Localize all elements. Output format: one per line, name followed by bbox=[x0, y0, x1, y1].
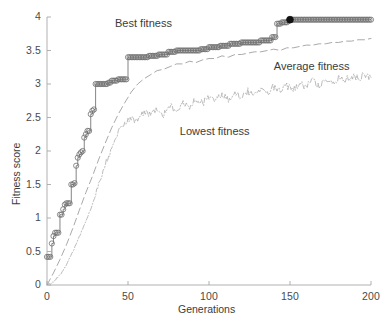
highlight-point bbox=[287, 16, 294, 23]
figure-canvas: 0 0.5 1 1.5 2 2.5 3 3.5 4 0 50 100 150 2… bbox=[0, 0, 390, 321]
y-tick-label-1: 1 bbox=[8, 211, 41, 223]
marker-group bbox=[44, 17, 373, 259]
y-tick-label-3: 3 bbox=[8, 77, 41, 89]
x-tick-label-100: 100 bbox=[189, 290, 229, 302]
annotation-average-fitness: Average fitness bbox=[274, 60, 350, 72]
x-tick-label-50: 50 bbox=[108, 290, 148, 302]
y-axis-label: Fitness score bbox=[10, 143, 22, 205]
y-tick-label-3_5: 3.5 bbox=[8, 44, 41, 56]
annotation-best-fitness: Best fitness bbox=[115, 17, 172, 29]
annotation-lowest-fitness: Lowest fitness bbox=[180, 125, 250, 137]
x-tick-label-200: 200 bbox=[351, 290, 390, 302]
x-axis-label: Generations bbox=[178, 303, 235, 315]
x-tick-label-0: 0 bbox=[27, 290, 67, 302]
chart-plot-area bbox=[0, 0, 390, 321]
axis-lines bbox=[47, 17, 371, 285]
y-tick-label-0: 0 bbox=[8, 278, 41, 290]
y-tick-label-4: 4 bbox=[8, 10, 41, 22]
x-tick-label-150: 150 bbox=[270, 290, 310, 302]
y-tick-label-0_5: 0.5 bbox=[8, 245, 41, 257]
y-tick-label-2_5: 2.5 bbox=[8, 111, 41, 123]
